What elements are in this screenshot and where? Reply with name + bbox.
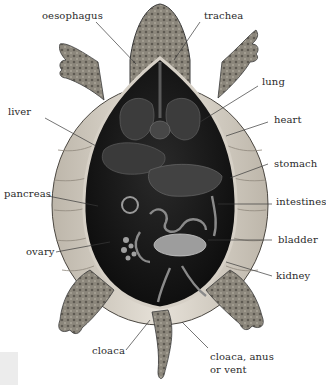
label-intestines: intestines [276,196,326,207]
label-oesophagus: oesophagus [42,10,103,21]
label-ovary: ovary [26,246,55,257]
bladder-organ [154,234,206,256]
label-heart: heart [274,114,302,125]
label-lung: lung [262,76,285,87]
corner-swatch [0,352,18,385]
label-cloaca: cloaca [92,345,125,356]
front-left-limb [59,44,104,100]
front-right-limb [218,30,258,98]
label-cloaca-vent-line1: cloaca, anus [210,351,274,362]
label-cloaca-vent-line2: or vent [210,364,247,375]
label-kidney: kidney [276,270,310,281]
body-cavity [84,58,236,308]
tail [152,310,172,379]
label-trachea: trachea [204,10,243,21]
label-bladder: bladder [278,234,318,245]
label-stomach: stomach [274,158,317,169]
label-liver: liver [8,106,31,117]
label-pancreas: pancreas [4,188,51,199]
